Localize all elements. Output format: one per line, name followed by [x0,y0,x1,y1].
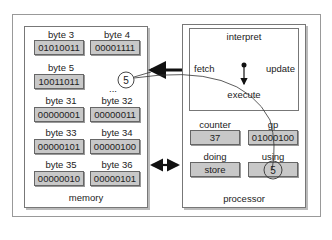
byte-value: 00000101 [34,139,84,154]
processor-title: processor [219,193,269,204]
update-label: update [263,63,295,74]
counter-value: 37 [190,130,240,145]
interpret-title: interpret [219,31,269,42]
ellipsis: ... [108,83,118,94]
byte-label: byte 36 [92,159,142,170]
doing-label: doing [190,151,240,162]
using-label: using [258,151,288,162]
memory-title: memory [61,192,111,203]
byte-value: 00000011 [90,107,140,122]
byte-value: 00000100 [90,139,140,154]
byte-value: 00000010 [34,171,84,186]
byte-label: byte 34 [92,127,142,138]
doing-value: store [190,162,240,177]
execute-label: execute [224,89,264,100]
fetch-label: fetch [194,63,224,74]
byte-value: 00000101 [90,171,140,186]
byte-value: 00000001 [34,107,84,122]
byte-value: 10011011 [34,74,84,89]
byte-label: byte 32 [92,95,142,106]
gp-value: 01000100 [248,130,298,145]
byte-label: byte 4 [92,29,142,40]
byte-label: byte 5 [36,62,86,73]
byte-label: byte 3 [36,29,86,40]
gp-label: gp [258,119,288,130]
counter-label: counter [190,119,240,130]
using-value [248,162,298,177]
byte-label: byte 33 [36,127,86,138]
byte-value: 01010011 [34,40,84,55]
byte-value: 00001111 [90,40,140,55]
byte-label: byte 31 [36,95,86,106]
byte-label: byte 35 [36,159,86,170]
